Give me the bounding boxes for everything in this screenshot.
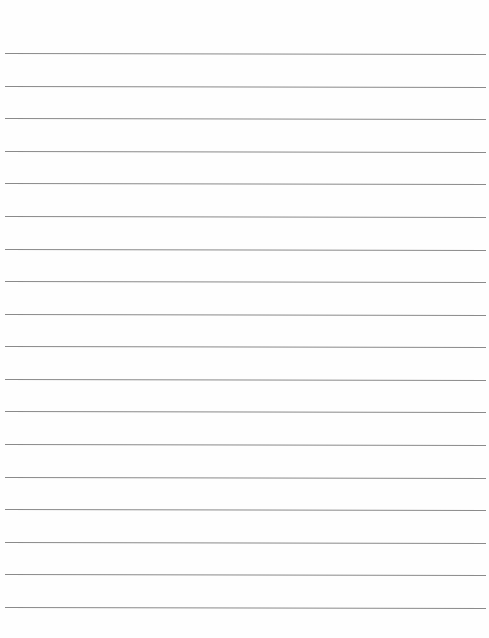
ruled-line xyxy=(5,444,486,446)
ruled-line xyxy=(5,216,486,218)
ruled-line xyxy=(5,542,486,544)
ruled-line xyxy=(5,249,486,251)
ruled-line xyxy=(5,53,486,55)
ruled-line xyxy=(5,118,486,120)
ruled-line xyxy=(5,314,486,316)
ruled-line xyxy=(5,379,486,381)
ruled-line xyxy=(5,509,486,511)
ruled-line xyxy=(5,86,486,88)
ruled-line xyxy=(5,281,486,283)
ruled-line xyxy=(5,411,486,413)
lined-paper-sheet xyxy=(0,0,489,638)
ruled-line xyxy=(5,574,486,576)
ruled-line xyxy=(5,183,486,185)
ruled-line xyxy=(5,477,486,479)
ruled-line xyxy=(5,607,486,609)
ruled-line xyxy=(5,151,486,153)
ruled-line xyxy=(5,346,486,348)
